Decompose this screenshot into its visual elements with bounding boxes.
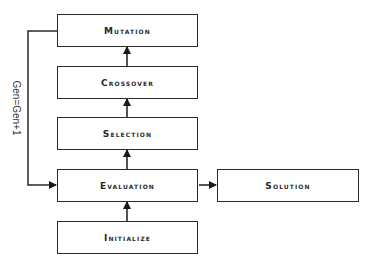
node-mutation: Mutation: [57, 14, 198, 47]
node-selection: Selection: [57, 117, 198, 150]
node-initialize: Initialize: [57, 221, 198, 254]
node-initialize-label: Initialize: [104, 233, 151, 243]
node-crossover: Crossover: [57, 66, 198, 99]
node-solution-label: Solution: [265, 181, 310, 191]
node-evaluation: Evaluation: [57, 169, 198, 202]
node-mutation-label: Mutation: [104, 26, 151, 36]
node-crossover-label: Crossover: [101, 78, 154, 88]
node-selection-label: Selection: [103, 129, 152, 139]
arrow-mutation-loop-to-evaluation: [28, 31, 57, 185]
node-evaluation-label: Evaluation: [100, 181, 155, 191]
node-solution: Solution: [217, 169, 359, 202]
loop-edge-label: Gen=Gen+1: [11, 80, 22, 135]
